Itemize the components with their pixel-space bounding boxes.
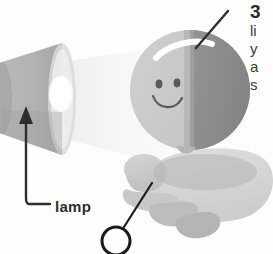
head-eye-right [174, 79, 181, 88]
body-line-3: a [250, 58, 273, 76]
lamp-cone-shading [2, 110, 62, 155]
illustration-artwork [0, 0, 273, 254]
body-line-4: s [250, 76, 273, 94]
section-number: 3 [250, 2, 273, 22]
body-line-2: y [250, 40, 273, 58]
head-eye-left [156, 80, 163, 89]
head-terminator [184, 28, 194, 154]
lamp-callout-label: lamp [55, 198, 91, 215]
head-shadow-half [190, 28, 254, 154]
figure-text-column: 3 li y a s [249, 0, 273, 110]
circle-callout-marker [102, 227, 130, 254]
lamp-bulb-aperture [49, 76, 73, 112]
body-line-1: li [250, 22, 273, 40]
figure-canvas: lamp 3 li y a s [0, 0, 273, 254]
hand-cast-shadow [153, 154, 257, 190]
lamp-group [0, 43, 76, 155]
